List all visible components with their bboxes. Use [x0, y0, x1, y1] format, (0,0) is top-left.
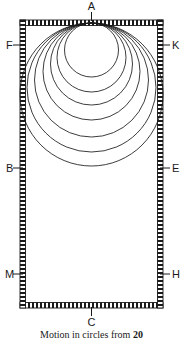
circle-7 — [20, 23, 163, 166]
label-tick-marks — [13, 12, 170, 316]
label-C: C — [88, 316, 96, 328]
frame-border — [20, 20, 163, 308]
figure-caption-number: 20 — [133, 329, 143, 340]
label-M: M — [5, 268, 14, 280]
label-E: E — [172, 162, 179, 174]
circle-4 — [43, 23, 140, 120]
frame-right-edge — [158, 20, 164, 308]
label-H: H — [172, 268, 180, 280]
vertex-labels: A F K B E M H C — [5, 0, 180, 328]
figure-caption-text: Motion in circles from — [40, 329, 133, 340]
label-B: B — [6, 162, 13, 174]
frame-left-edge — [20, 20, 26, 308]
label-K: K — [172, 39, 180, 51]
label-F: F — [6, 39, 13, 51]
circle-1 — [65, 23, 119, 77]
label-A: A — [88, 0, 96, 12]
circle-3 — [51, 23, 133, 105]
figure-caption: Motion in circles from 20 — [0, 329, 183, 340]
circle-6 — [27, 23, 156, 152]
circle-family — [20, 23, 163, 166]
circle-2 — [57, 23, 126, 92]
